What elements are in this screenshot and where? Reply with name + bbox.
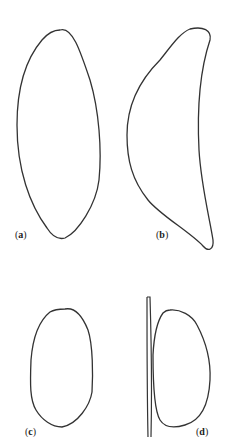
figure-canvas [0, 0, 236, 437]
panel-label-d: (d) [196, 426, 208, 437]
panel-label-b: (b) [156, 229, 168, 240]
shape-d-outline [153, 310, 210, 427]
shape-b-outline [127, 28, 213, 249]
panel-label-a: (a) [15, 229, 27, 240]
shape-c-outline [31, 309, 93, 427]
shape-d-rod [147, 297, 151, 437]
shape-a-outline [17, 30, 100, 239]
panel-label-c: (c) [25, 426, 36, 437]
